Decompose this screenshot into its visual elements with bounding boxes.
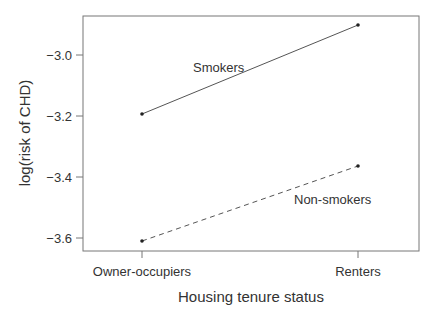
series-non-smokers: Non-smokers — [140, 164, 372, 243]
x-axis-label: Housing tenure status — [178, 288, 324, 305]
non-smokers-label: Non-smokers — [294, 192, 372, 207]
x-tick-label: Renters — [335, 264, 381, 279]
series-smokers: Smokers — [140, 23, 360, 116]
x-tick-label: Owner-occupiers — [93, 264, 192, 279]
smokers-label: Smokers — [193, 60, 245, 75]
plot-frame — [83, 16, 419, 251]
y-tick-label: −3.2 — [46, 109, 72, 124]
y-tick-label: −3.4 — [46, 170, 72, 185]
x-axis: Owner-occupiers Renters Housing tenure s… — [93, 251, 381, 305]
y-tick-label: −3.0 — [46, 48, 72, 63]
y-axis: −3.0 −3.2 −3.4 −3.6 log(risk of CHD) — [16, 48, 83, 246]
y-axis-label: log(risk of CHD) — [16, 80, 33, 187]
y-tick-label: −3.6 — [46, 231, 72, 246]
chart: −3.0 −3.2 −3.4 −3.6 log(risk of CHD) Own… — [0, 0, 442, 316]
